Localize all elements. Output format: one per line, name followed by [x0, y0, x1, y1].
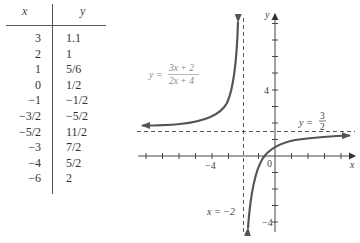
svg-text:3x + 2: 3x + 2 [168, 63, 194, 73]
function-label: y = 3x + 2 2x + 4 [148, 63, 199, 86]
svg-text:y =: y = [148, 69, 163, 80]
svg-text:y =: y = [298, 117, 313, 128]
svg-text:2: 2 [320, 122, 325, 132]
svg-text:3: 3 [320, 111, 325, 121]
x-tick-label-neg4: −4 [205, 160, 216, 171]
svg-text:2x + 4: 2x + 4 [169, 76, 194, 86]
y-tick-label-neg4: −4 [262, 217, 273, 228]
function-graph: y x −4 0 4 −4 y = 3x + 2 2x + 4 y = 3 2 … [0, 0, 360, 243]
x-axis-label: x [349, 159, 355, 170]
curve-right-branch [248, 136, 350, 229]
y-tick-label-4: 4 [264, 85, 269, 96]
origin-label: 0 [267, 158, 272, 169]
y-axis-label: y [264, 9, 270, 20]
vertical-asymptote-label: x = −2 [206, 206, 235, 217]
horizontal-asymptote-label: y = 3 2 [298, 111, 326, 132]
